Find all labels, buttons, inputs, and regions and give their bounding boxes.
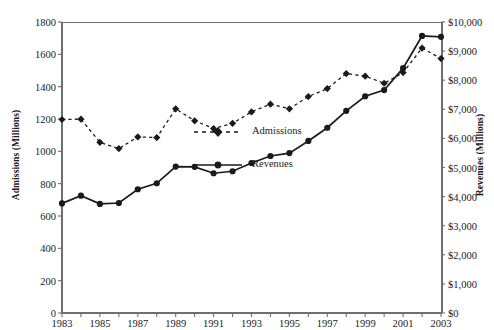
data-point-revenues-2002	[419, 33, 425, 39]
series-line-revenues	[62, 36, 441, 204]
data-point-admissions-1987	[134, 133, 141, 140]
x-tick-1999: 1999	[355, 318, 376, 329]
y-left-tick-200: 200	[0, 275, 56, 286]
data-point-revenues-1998	[343, 108, 349, 114]
y-left-tick-1600: 1600	[0, 49, 56, 60]
data-point-admissions-1983	[58, 116, 65, 123]
x-tick-1995: 1995	[279, 318, 300, 329]
x-tick-1983: 1983	[52, 318, 73, 329]
y-right-tick-9000: $9,000	[448, 46, 477, 57]
y-left-tick-1200: 1200	[0, 114, 56, 125]
y-left-tick-1800: 1800	[0, 17, 56, 28]
data-point-revenues-1999	[362, 93, 368, 99]
data-point-admissions-1989	[172, 105, 179, 112]
y-right-tick-5000: $5,000	[448, 162, 477, 173]
data-point-admissions-1999	[362, 73, 369, 80]
y-right-tick-3000: $3,000	[448, 220, 477, 231]
data-point-admissions-1996	[305, 93, 312, 100]
data-point-revenues-1983	[59, 200, 65, 206]
chart-figure: Admissions (Millions) Revenues (Millions…	[0, 0, 494, 330]
data-point-admissions-2000	[381, 80, 388, 87]
legend-label-admissions: Admissions	[252, 125, 302, 136]
y-right-tick-4000: $4,000	[448, 191, 477, 202]
plot-area: Admissions Revenues	[62, 22, 441, 313]
data-point-admissions-1984	[77, 116, 84, 123]
legend-swatch-admissions	[192, 125, 244, 139]
data-point-revenues-2003	[438, 34, 444, 40]
data-point-revenues-1989	[173, 163, 179, 169]
data-point-admissions-1986	[115, 145, 122, 152]
y-left-tick-0: 0	[0, 308, 56, 319]
data-point-revenues-2000	[381, 87, 387, 93]
x-tick-1985: 1985	[89, 318, 110, 329]
data-point-admissions-1994	[267, 101, 274, 108]
data-point-revenues-1996	[305, 138, 311, 144]
y-right-tick-1000: $1,000	[448, 278, 477, 289]
x-tick-1987: 1987	[127, 318, 148, 329]
data-point-revenues-1988	[154, 180, 160, 186]
y-left-tick-1000: 1000	[0, 146, 56, 157]
data-point-admissions-1988	[153, 134, 160, 141]
y-left-tick-600: 600	[0, 211, 56, 222]
y-right-tick-0: $0	[448, 308, 459, 319]
x-tick-2003: 2003	[431, 318, 452, 329]
data-point-revenues-1984	[78, 193, 84, 199]
y-right-tick-7000: $7,000	[448, 104, 477, 115]
x-tick-2001: 2001	[393, 318, 414, 329]
data-point-revenues-2001	[400, 65, 406, 71]
legend-swatch-revenues	[192, 158, 244, 172]
data-point-admissions-1993	[248, 108, 255, 115]
y-right-tick-2000: $2,000	[448, 249, 477, 260]
x-tick-1997: 1997	[317, 318, 338, 329]
y-left-tick-1400: 1400	[0, 81, 56, 92]
y-left-tick-400: 400	[0, 243, 56, 254]
data-point-revenues-1985	[97, 201, 103, 207]
data-point-admissions-1990	[191, 117, 198, 124]
x-tick-1989: 1989	[165, 318, 186, 329]
x-tick-1993: 1993	[241, 318, 262, 329]
y-right-tick-8000: $8,000	[448, 75, 477, 86]
data-point-admissions-1995	[286, 105, 293, 112]
data-point-revenues-1986	[116, 200, 122, 206]
data-point-revenues-1997	[324, 125, 330, 131]
y-right-tick-10000: $10,000	[448, 17, 482, 28]
x-tick-1991: 1991	[203, 318, 224, 329]
y-left-tick-800: 800	[0, 178, 56, 189]
legend-label-revenues: Revenues	[252, 158, 293, 169]
data-point-revenues-1995	[286, 150, 292, 156]
y-right-tick-6000: $6,000	[448, 133, 477, 144]
data-point-revenues-1987	[135, 186, 141, 192]
data-point-admissions-2003	[437, 55, 444, 62]
